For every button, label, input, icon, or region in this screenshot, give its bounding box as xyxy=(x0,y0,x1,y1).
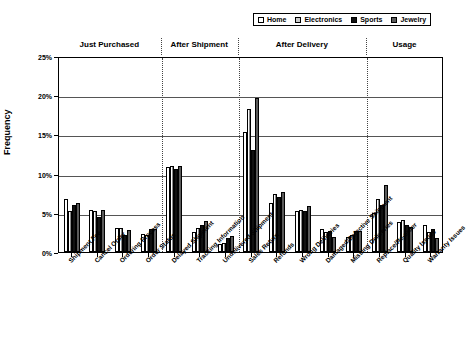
y-tick-label: 25% xyxy=(38,54,52,61)
bar xyxy=(281,192,285,252)
y-tick-label: 5% xyxy=(42,210,52,217)
chart-legend: HomeElectronicsSportsJewelry xyxy=(253,13,431,26)
legend-swatch-icon xyxy=(295,17,301,23)
legend-item-jewelry[interactable]: Jewelry xyxy=(391,16,426,23)
legend-swatch-icon xyxy=(391,17,397,23)
section-header: After Delivery xyxy=(276,40,328,49)
y-tick-label: 20% xyxy=(38,93,52,100)
y-axis-title: Frequency xyxy=(2,109,12,155)
legend-label: Electronics xyxy=(304,16,342,23)
section-divider xyxy=(238,38,239,55)
y-tick-label: 0% xyxy=(42,250,52,257)
legend-label: Sports xyxy=(360,16,382,23)
bar xyxy=(178,166,182,252)
legend-item-electronics[interactable]: Electronics xyxy=(295,16,342,23)
legend-item-sports[interactable]: Sports xyxy=(351,16,382,23)
section-divider xyxy=(161,38,162,55)
section-divider xyxy=(366,38,367,55)
bar-group xyxy=(264,58,290,252)
section-header: Usage xyxy=(392,40,416,49)
legend-swatch-icon xyxy=(351,17,357,23)
legend-label: Jewelry xyxy=(400,16,426,23)
section-header: Just Purchased xyxy=(80,40,140,49)
bar-group xyxy=(290,58,316,252)
y-tick-label: 10% xyxy=(38,171,52,178)
legend-swatch-icon xyxy=(258,17,264,23)
bar-group xyxy=(162,58,188,252)
legend-item-home[interactable]: Home xyxy=(258,16,286,23)
bar-group xyxy=(85,58,111,252)
section-header: After Shipment xyxy=(170,40,227,49)
bar xyxy=(76,203,80,252)
bar-group xyxy=(110,58,136,252)
bar-group xyxy=(59,58,85,252)
y-tick-label: 15% xyxy=(38,132,52,139)
y-tick-mark xyxy=(54,253,58,254)
bar-group xyxy=(418,58,444,252)
legend-label: Home xyxy=(267,16,286,23)
